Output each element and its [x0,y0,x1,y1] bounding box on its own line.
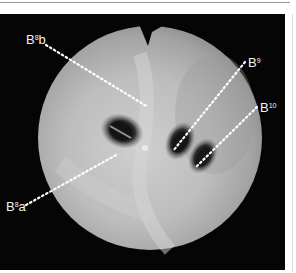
field-of-view [38,24,262,250]
endoscope-view [0,14,285,270]
label-b10: B10 [260,101,276,114]
label-b9: B9 [248,56,261,69]
top-rule [0,2,290,3]
label-b8a: B8a [6,200,26,213]
right-rule [292,14,293,272]
bronchoscopy-image: B8b B9 B10 B8a [0,14,285,270]
label-b8b: B8b [26,33,46,46]
